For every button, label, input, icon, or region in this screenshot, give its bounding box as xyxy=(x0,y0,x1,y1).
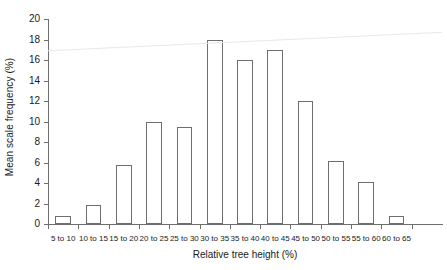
x-axis-tick xyxy=(260,225,261,229)
y-axis-tick-label: 6 xyxy=(2,156,40,169)
bar xyxy=(55,216,71,224)
x-axis-tick xyxy=(412,225,413,229)
y-axis-tick-label: 8 xyxy=(2,135,40,148)
bar xyxy=(116,165,132,224)
chart-figure: Mean scale frequency (%) 024681012141618… xyxy=(0,0,447,270)
bar xyxy=(389,216,405,224)
y-axis-tick xyxy=(44,81,48,82)
x-axis-tick xyxy=(230,225,231,229)
bar xyxy=(267,50,283,224)
y-axis-tick xyxy=(44,204,48,205)
bar xyxy=(328,161,344,224)
bar xyxy=(207,40,223,225)
x-axis-tick xyxy=(48,225,49,229)
y-axis-tick-label: 12 xyxy=(2,94,40,107)
y-axis-tick xyxy=(44,142,48,143)
x-axis-tick xyxy=(200,225,201,229)
bar xyxy=(298,101,314,224)
y-axis-tick xyxy=(44,122,48,123)
y-axis-tick-label: 18 xyxy=(2,33,40,46)
bar xyxy=(86,205,102,224)
y-axis-tick xyxy=(44,101,48,102)
x-axis-tick xyxy=(381,225,382,229)
y-axis-tick-label: 0 xyxy=(2,217,40,230)
bar xyxy=(358,182,374,224)
y-axis-tick xyxy=(44,163,48,164)
y-axis-line xyxy=(48,19,49,225)
y-axis-tick-label: 14 xyxy=(2,74,40,87)
y-axis-tick-label: 10 xyxy=(2,115,40,128)
x-axis-tick xyxy=(351,225,352,229)
x-axis-tick xyxy=(139,225,140,229)
x-axis-tick xyxy=(321,225,322,229)
y-axis-tick xyxy=(44,183,48,184)
x-axis-line xyxy=(48,224,443,225)
x-axis-tick xyxy=(109,225,110,229)
bar xyxy=(146,122,162,225)
y-axis-tick-label: 20 xyxy=(2,12,40,25)
x-axis-tick xyxy=(290,225,291,229)
y-axis-tick-label: 4 xyxy=(2,176,40,189)
x-axis-tick xyxy=(169,225,170,229)
y-axis-tick xyxy=(44,40,48,41)
y-axis-tick-label: 2 xyxy=(2,197,40,210)
y-axis-tick-label: 16 xyxy=(2,53,40,66)
y-axis-tick xyxy=(44,19,48,20)
bar xyxy=(177,127,193,224)
bar xyxy=(237,60,253,224)
plot-area: 02468101214161820 xyxy=(48,19,442,224)
x-axis-tick-label: 60 to 65 xyxy=(373,233,421,244)
x-axis-title: Relative tree height (%) xyxy=(48,248,442,261)
y-axis-tick xyxy=(44,60,48,61)
x-axis-tick xyxy=(78,225,79,229)
